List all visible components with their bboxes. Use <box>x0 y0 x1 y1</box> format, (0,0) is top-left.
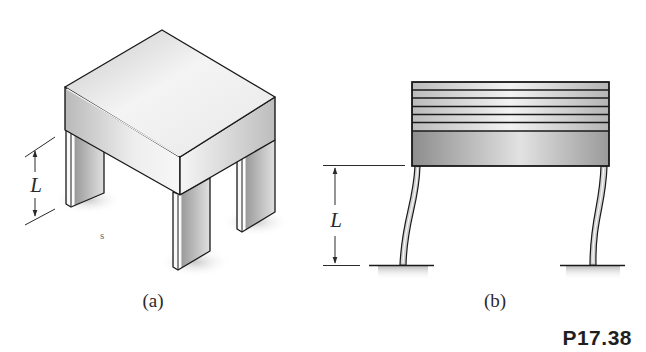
column-right <box>590 166 607 265</box>
dimension-label-a: L <box>29 175 43 195</box>
dimension-label-b: L <box>329 210 343 230</box>
panel-b-side-view <box>323 82 625 280</box>
stray-mark: s <box>100 229 104 241</box>
caption-b: (b) <box>484 290 506 312</box>
panel-a-isometric-table <box>25 30 289 277</box>
layered-slab <box>412 82 609 166</box>
column-left <box>400 166 420 265</box>
problem-number: P17.38 <box>562 326 632 350</box>
ground-shade-right <box>566 266 620 280</box>
ground-shade-left <box>378 266 428 280</box>
caption-a: (a) <box>142 290 163 312</box>
diagram-svg <box>0 0 646 352</box>
